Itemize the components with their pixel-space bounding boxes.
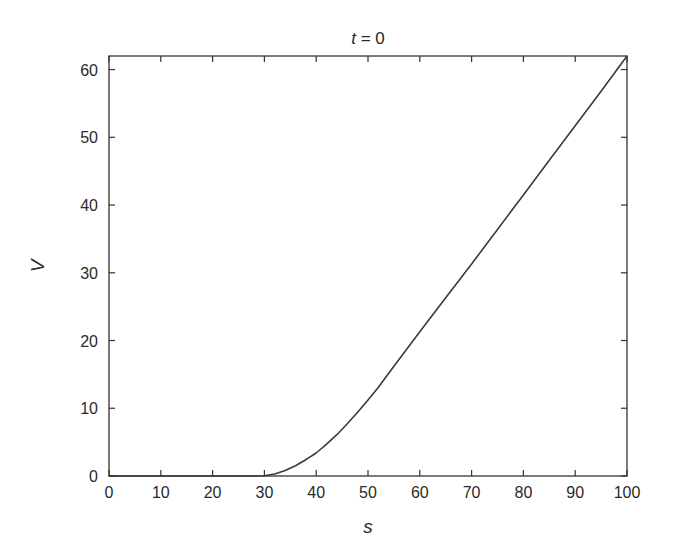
chart-title: t = 0 (351, 29, 385, 48)
x-tick-label: 90 (566, 484, 584, 501)
axis-ticks (109, 56, 627, 476)
x-tick-label: 40 (307, 484, 325, 501)
x-tick-label: 0 (105, 484, 114, 501)
y-tick-labels: 0102030405060 (80, 62, 98, 485)
chart: 0102030405060708090100 0102030405060 t =… (0, 0, 680, 560)
x-tick-label: 60 (411, 484, 429, 501)
y-tick-label: 20 (80, 333, 98, 350)
x-tick-label: 20 (204, 484, 222, 501)
x-tick-label: 100 (614, 484, 641, 501)
y-tick-label: 50 (80, 129, 98, 146)
y-tick-label: 40 (80, 197, 98, 214)
x-tick-label: 30 (256, 484, 274, 501)
y-tick-label: 0 (89, 468, 98, 485)
x-tick-label: 80 (515, 484, 533, 501)
y-tick-label: 10 (80, 400, 98, 417)
y-axis-label: V (27, 257, 48, 272)
data-line (109, 56, 627, 476)
x-tick-label: 70 (463, 484, 481, 501)
plot-area (109, 56, 627, 476)
axes-box (109, 56, 627, 476)
y-tick-label: 60 (80, 62, 98, 79)
y-tick-label: 30 (80, 265, 98, 282)
x-tick-label: 10 (152, 484, 170, 501)
x-axis-label: s (363, 516, 373, 537)
x-tick-label: 50 (359, 484, 377, 501)
x-tick-labels: 0102030405060708090100 (105, 484, 641, 501)
